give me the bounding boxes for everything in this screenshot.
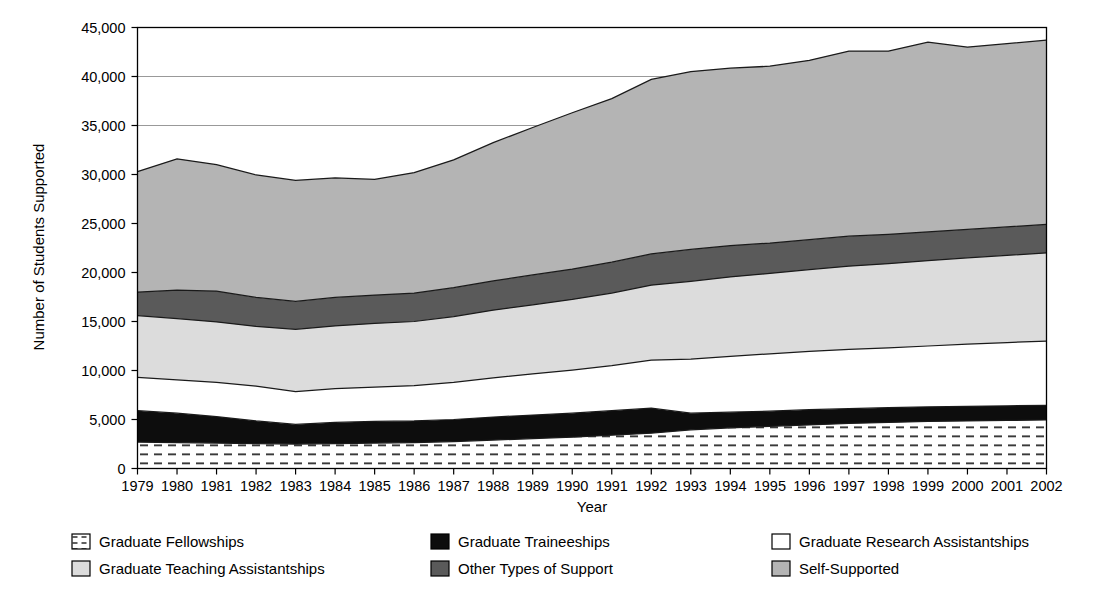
legend-item[interactable]: Other Types of Support <box>431 560 614 577</box>
x-tick-label: 2002 <box>1030 478 1062 494</box>
x-tick-label: 1999 <box>912 478 944 494</box>
legend-swatch <box>72 534 90 549</box>
x-tick-label: 1986 <box>398 478 430 494</box>
legend-swatch <box>72 561 90 576</box>
y-tick-label: 45,000 <box>81 20 125 36</box>
y-tick-label: 20,000 <box>81 265 125 281</box>
legend-label: Graduate Research Assistantships <box>799 533 1029 550</box>
y-tick-label: 5,000 <box>89 412 125 428</box>
legend-item[interactable]: Graduate Fellowships <box>72 533 244 550</box>
y-axis-ticks <box>132 28 138 469</box>
x-tick-label: 1994 <box>714 478 746 494</box>
x-tick-label: 1989 <box>517 478 549 494</box>
x-tick-label: 1987 <box>438 478 470 494</box>
y-tick-label: 40,000 <box>81 69 125 85</box>
legend-swatch <box>431 534 449 549</box>
x-axis-tick-labels: 1979198019811982198319841985198619871988… <box>121 478 1062 494</box>
x-tick-label: 1979 <box>121 478 153 494</box>
area-bands <box>138 40 1047 468</box>
legend-label: Graduate Fellowships <box>99 533 244 550</box>
x-tick-label: 1981 <box>200 478 232 494</box>
stacked-area-chart: 05,00010,00015,00020,00025,00030,00035,0… <box>0 0 1109 605</box>
x-tick-label: 1997 <box>833 478 865 494</box>
y-axis-tick-labels: 05,00010,00015,00020,00025,00030,00035,0… <box>81 20 125 477</box>
legend: Graduate FellowshipsGraduate Traineeship… <box>72 533 1029 577</box>
x-tick-label: 1985 <box>358 478 390 494</box>
legend-swatch <box>431 561 449 576</box>
legend-item[interactable]: Graduate Research Assistantships <box>772 533 1029 550</box>
y-tick-label: 0 <box>117 461 125 477</box>
x-tick-label: 1998 <box>872 478 904 494</box>
x-tick-label: 1995 <box>754 478 786 494</box>
y-tick-label: 10,000 <box>81 363 125 379</box>
x-axis-ticks <box>138 469 1047 475</box>
x-tick-label: 1992 <box>635 478 667 494</box>
legend-item[interactable]: Graduate Traineeships <box>431 533 610 550</box>
x-tick-label: 1991 <box>596 478 628 494</box>
x-axis-title: Year <box>577 498 607 515</box>
legend-label: Graduate Traineeships <box>458 533 610 550</box>
x-tick-label: 1984 <box>319 478 351 494</box>
legend-label: Other Types of Support <box>458 560 614 577</box>
y-tick-label: 25,000 <box>81 216 125 232</box>
legend-item[interactable]: Graduate Teaching Assistantships <box>72 560 325 577</box>
x-tick-label: 1982 <box>240 478 272 494</box>
legend-item[interactable]: Self-Supported <box>772 560 899 577</box>
x-tick-label: 1988 <box>477 478 509 494</box>
x-tick-label: 1996 <box>793 478 825 494</box>
legend-swatch <box>772 534 790 549</box>
x-tick-label: 1980 <box>161 478 193 494</box>
legend-label: Self-Supported <box>799 560 899 577</box>
y-tick-label: 30,000 <box>81 167 125 183</box>
legend-label: Graduate Teaching Assistantships <box>99 560 325 577</box>
legend-swatch <box>772 561 790 576</box>
x-tick-label: 2001 <box>991 478 1023 494</box>
x-tick-label: 1990 <box>556 478 588 494</box>
y-tick-label: 35,000 <box>81 118 125 134</box>
x-tick-label: 1993 <box>675 478 707 494</box>
x-tick-label: 1983 <box>279 478 311 494</box>
y-axis-title: Number of Students Supported <box>30 144 47 351</box>
chart-canvas: 05,00010,00015,00020,00025,00030,00035,0… <box>0 0 1109 605</box>
x-tick-label: 2000 <box>951 478 983 494</box>
y-tick-label: 15,000 <box>81 314 125 330</box>
